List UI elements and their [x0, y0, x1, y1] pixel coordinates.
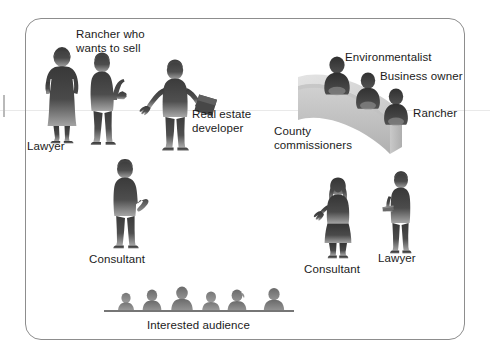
- label-consultant-left: Consultant: [89, 253, 145, 267]
- label-rancher-who-wants-to-sell: Rancher who wants to sell: [76, 28, 145, 55]
- label-environmentalist: Environmentalist: [345, 51, 432, 65]
- label-rancher-bench: Rancher: [413, 107, 457, 121]
- label-interested-audience: Interested audience: [147, 319, 250, 333]
- label-business-owner: Business owner: [380, 70, 463, 84]
- audience-member: [264, 288, 284, 311]
- audience-floor-line: [104, 310, 294, 312]
- audience-member: [171, 287, 193, 311]
- label-real-estate-developer: Real estate developer: [192, 108, 251, 135]
- audience-member: [143, 290, 162, 311]
- figure-consultant-right: [310, 176, 366, 262]
- figure-real-estate-developer: [137, 58, 221, 153]
- audience-member: [202, 291, 220, 310]
- figure-lawyer-right: [377, 170, 421, 256]
- figure-rancher-bench: [380, 88, 414, 127]
- scan-artifact-left-mark: [3, 95, 5, 117]
- audience-member: [118, 293, 134, 311]
- figure-consultant-left: [101, 157, 163, 251]
- label-lawyer-left: Lawyer: [27, 140, 65, 154]
- label-county-commissioners: County commissioners: [274, 125, 352, 152]
- label-consultant-right: Consultant: [304, 263, 360, 277]
- audience-member: [228, 290, 247, 311]
- label-lawyer-right: Lawyer: [378, 252, 416, 266]
- figure-rancher-who-wants-to-sell: [80, 50, 138, 148]
- illustration-scene: Lawyer Rancher who wants to: [0, 0, 490, 354]
